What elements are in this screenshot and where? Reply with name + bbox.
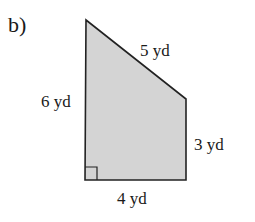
trapezoid-shape (85, 20, 186, 180)
part-label: b) (8, 12, 26, 37)
trapezoid-figure: b) 5 yd 6 yd 3 yd 4 yd (0, 0, 255, 222)
side-label-right: 3 yd (194, 135, 224, 154)
side-label-bottom: 4 yd (117, 189, 147, 208)
side-label-left: 6 yd (41, 92, 71, 111)
side-label-top-slant: 5 yd (140, 41, 170, 60)
